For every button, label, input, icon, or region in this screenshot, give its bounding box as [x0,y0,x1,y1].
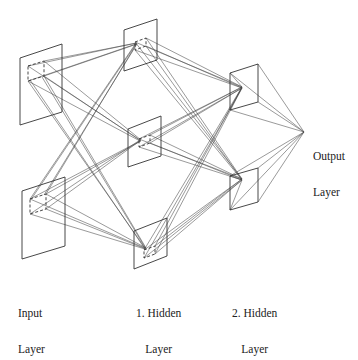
input-label-line2: Layer [18,343,45,355]
hidden2-label-line1: 2. Hidden [232,307,277,319]
output-layer-label: Output Layer [313,126,345,210]
hidden1-label-line2: Layer [136,343,181,355]
hidden1-plane-middle [128,116,161,167]
hidden1-plane-top [124,19,157,71]
connections [28,38,304,258]
hidden1-label-line1: 1. Hidden [136,307,181,319]
hidden2-layer-label: 2. Hidden Layer [232,283,277,360]
input-label-line1: Input [18,307,45,319]
hidden1-layer-label: 1. Hidden Layer [136,283,181,360]
hidden2-plane-bottom [230,168,258,210]
output-label-line2: Layer [313,186,345,198]
input-layer-label: Input Layer [18,283,45,360]
hidden2-label-line2: Layer [232,343,277,355]
output-label-line1: Output [313,150,345,162]
